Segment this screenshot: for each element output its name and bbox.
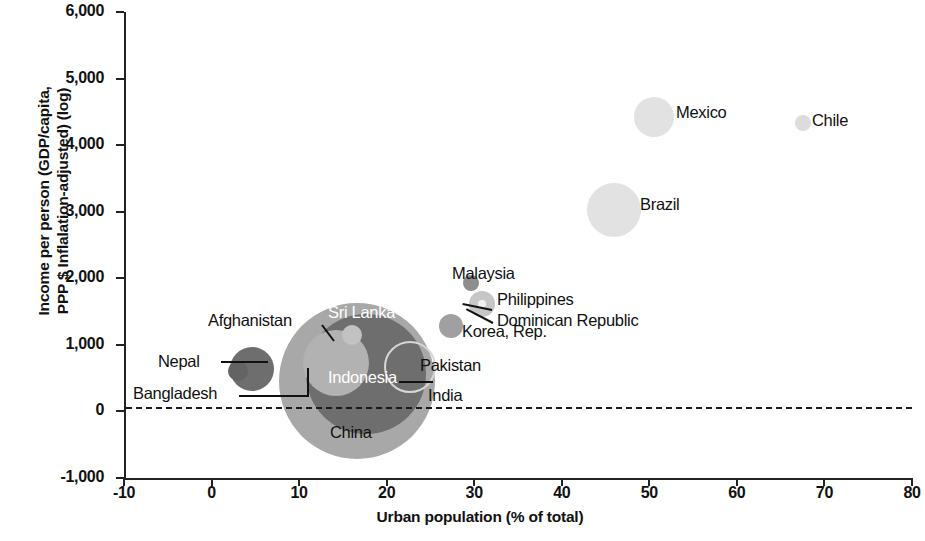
y-axis-tick-label: 4,000	[8, 135, 104, 153]
y-axis-tick-label: 1,000	[8, 335, 104, 353]
bubble-label-chile: Chile	[812, 111, 848, 130]
x-axis-tick-label: 0	[182, 484, 242, 502]
y-axis-tick	[116, 144, 124, 146]
x-axis-tick-label: 70	[794, 484, 854, 502]
bubble-brazil[interactable]	[587, 183, 641, 237]
label-leader-line	[239, 395, 307, 397]
bubble-label-philippines: Philippines	[497, 290, 574, 309]
bubble-label-china: China	[330, 423, 372, 442]
label-leader-line	[307, 368, 309, 397]
bubble-label-nepal: Nepal	[158, 352, 200, 371]
bubble-label-pakistan: Pakistan	[420, 356, 481, 375]
y-axis-tick	[116, 344, 124, 346]
y-axis-tick-label: 6,000	[8, 2, 104, 20]
x-axis-tick-label: 40	[532, 484, 592, 502]
bubble-sri-lanka[interactable]	[342, 325, 362, 345]
bubble-label-korea: Korea, Rep.	[462, 322, 547, 341]
bubble-chile[interactable]	[795, 115, 811, 131]
bubble-label-sri_lanka: Sri Lanka	[328, 303, 395, 322]
bubble-label-malaysia: Malaysia	[452, 264, 515, 283]
x-axis-tick-label: 50	[619, 484, 679, 502]
bubble-mexico[interactable]	[634, 97, 674, 137]
y-axis-tick-label: 5,000	[8, 69, 104, 87]
bubble-label-mexico: Mexico	[676, 103, 726, 122]
y-axis-tick-label: -1,000	[8, 468, 104, 486]
bubble-label-india: India	[428, 386, 462, 405]
y-axis-tick	[116, 277, 124, 279]
bubble-label-indonesia: Indonesia	[328, 368, 397, 387]
label-leader-line	[399, 381, 433, 383]
zero-reference-line	[126, 407, 912, 409]
x-axis-tick-label: -10	[94, 484, 154, 502]
label-leader-line	[221, 361, 268, 363]
y-axis-tick	[116, 211, 124, 213]
y-axis-tick	[116, 78, 124, 80]
x-axis-tick-label: 30	[444, 484, 504, 502]
y-axis-tick-label: 0	[8, 401, 104, 419]
bubble-label-afghanistan: Afghanistan	[208, 311, 292, 330]
y-axis-tick-label: 2,000	[8, 268, 104, 286]
x-axis-tick-label: 60	[707, 484, 767, 502]
x-axis-tick-label: 20	[357, 484, 417, 502]
y-axis-tick	[116, 11, 124, 13]
bubble-label-bangladesh: Bangladesh	[133, 384, 217, 403]
y-axis-tick	[116, 410, 124, 412]
x-axis-tick-label: 10	[269, 484, 329, 502]
x-axis-tick-label: 80	[882, 484, 925, 502]
y-axis-tick-label: 3,000	[8, 202, 104, 220]
bubble-korea-rep[interactable]	[439, 314, 463, 338]
bubble-label-brazil: Brazil	[640, 195, 679, 214]
